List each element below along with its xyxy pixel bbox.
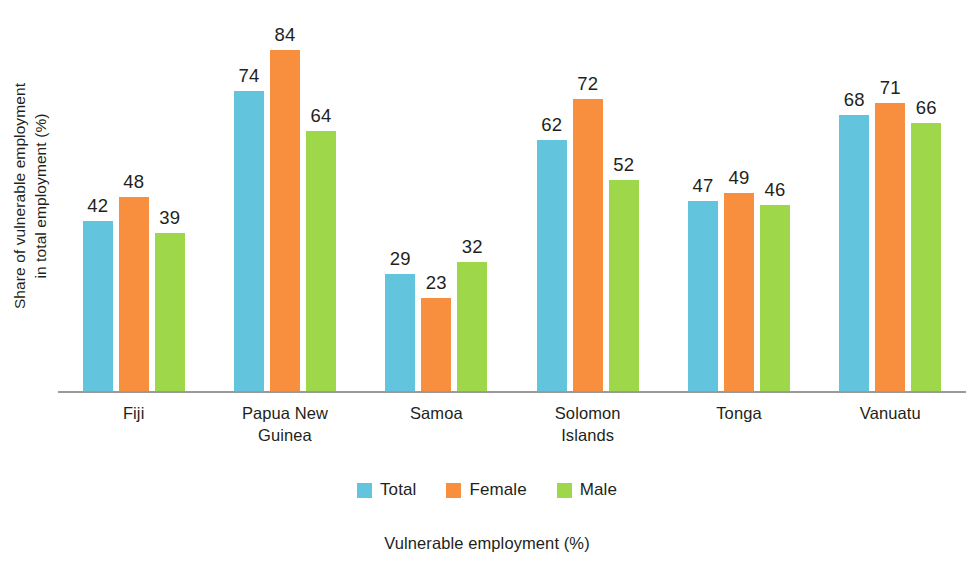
bar-value-label: 29 (390, 248, 411, 270)
x-axis-label-line: Papua New (209, 402, 360, 424)
bar-value-label: 52 (613, 154, 634, 176)
y-axis-title-line-2: in total employment (%) (30, 83, 51, 309)
bar-value-label: 47 (692, 175, 713, 197)
bar-value-label: 23 (426, 272, 447, 294)
bar-item[interactable]: 72 (573, 0, 603, 392)
bar-value-label: 74 (238, 65, 259, 87)
bar-value-label: 46 (764, 179, 785, 201)
bar-value-label: 49 (728, 167, 749, 189)
bar-male[interactable] (911, 123, 941, 392)
bar-group-bars: 474946 (663, 0, 814, 392)
bar-group-bars: 627252 (512, 0, 663, 392)
bar-female[interactable] (573, 99, 603, 392)
bar-value-label: 68 (844, 89, 865, 111)
bar-value-label: 62 (541, 114, 562, 136)
vulnerable-employment-bar-chart: Share of vulnerable employment in total … (0, 0, 974, 572)
y-axis-title-line-1: Share of vulnerable employment (11, 83, 28, 309)
x-axis-label-line: Guinea (209, 424, 360, 446)
bar-male[interactable] (306, 131, 336, 392)
y-axis-title: Share of vulnerable employment in total … (0, 0, 60, 392)
bar-total[interactable] (234, 91, 264, 392)
x-axis-label: Samoa (361, 402, 512, 424)
bar-total[interactable] (83, 221, 113, 392)
x-axis-label: Fiji (58, 402, 209, 424)
bar-value-label: 32 (462, 236, 483, 258)
bar-item[interactable]: 71 (875, 0, 905, 392)
bar-item[interactable]: 47 (688, 0, 718, 392)
legend-swatch-icon (357, 483, 372, 498)
bar-item[interactable]: 23 (421, 0, 451, 392)
legend-item-total[interactable]: Total (357, 480, 416, 500)
bar-value-label: 66 (916, 97, 937, 119)
bar-female[interactable] (421, 298, 451, 392)
legend-swatch-icon (446, 483, 461, 498)
bar-value-label: 72 (577, 73, 598, 95)
bar-item[interactable]: 42 (83, 0, 113, 392)
bar-female[interactable] (119, 197, 149, 392)
bar-group: 687166 (815, 0, 966, 392)
legend-item-female[interactable]: Female (446, 480, 526, 500)
bar-value-label: 39 (159, 207, 180, 229)
bar-item[interactable]: 39 (155, 0, 185, 392)
bar-male[interactable] (760, 205, 790, 392)
bar-total[interactable] (688, 201, 718, 392)
bar-item[interactable]: 29 (385, 0, 415, 392)
x-axis-label-line: Fiji (58, 402, 209, 424)
bar-item[interactable]: 66 (911, 0, 941, 392)
x-axis-label: SolomonIslands (512, 402, 663, 446)
bar-group-bars: 424839 (58, 0, 209, 392)
bar-item[interactable]: 64 (306, 0, 336, 392)
bar-value-label: 84 (274, 24, 295, 46)
legend-label: Male (580, 480, 617, 500)
bar-value-label: 71 (880, 77, 901, 99)
x-axis-label-line: Islands (512, 424, 663, 446)
bar-female[interactable] (270, 50, 300, 392)
bar-total[interactable] (839, 115, 869, 392)
bar-group: 292332 (361, 0, 512, 392)
x-axis-label: Vanuatu (815, 402, 966, 424)
x-axis-label: Tonga (663, 402, 814, 424)
bar-item[interactable]: 68 (839, 0, 869, 392)
bar-female[interactable] (875, 103, 905, 392)
bar-group-bars: 748464 (209, 0, 360, 392)
bar-group: 748464 (209, 0, 360, 392)
bar-total[interactable] (537, 140, 567, 392)
legend-item-male[interactable]: Male (557, 480, 617, 500)
legend-label: Total (380, 480, 416, 500)
bar-item[interactable]: 46 (760, 0, 790, 392)
bar-item[interactable]: 52 (609, 0, 639, 392)
bar-item[interactable]: 62 (537, 0, 567, 392)
x-axis-label-line: Vanuatu (815, 402, 966, 424)
x-axis-line (58, 391, 966, 393)
bar-item[interactable]: 74 (234, 0, 264, 392)
bar-item[interactable]: 84 (270, 0, 300, 392)
chart-legend: TotalFemaleMale (0, 480, 974, 500)
bar-male[interactable] (609, 180, 639, 392)
bar-group-bars: 292332 (361, 0, 512, 392)
bar-group-bars: 687166 (815, 0, 966, 392)
chart-caption: Vulnerable employment (%) (0, 534, 974, 553)
x-axis-label-line: Solomon (512, 402, 663, 424)
x-axis-label: Papua NewGuinea (209, 402, 360, 446)
bar-item[interactable]: 48 (119, 0, 149, 392)
bar-female[interactable] (724, 193, 754, 393)
bar-item[interactable]: 49 (724, 0, 754, 392)
x-axis-category-labels: FijiPapua NewGuineaSamoaSolomonIslandsTo… (58, 402, 966, 462)
bar-group: 424839 (58, 0, 209, 392)
bar-male[interactable] (155, 233, 185, 392)
plot-area: 424839748464292332627252474946687166 (58, 0, 966, 392)
bar-male[interactable] (457, 262, 487, 392)
bar-total[interactable] (385, 274, 415, 392)
x-axis-label-line: Samoa (361, 402, 512, 424)
bar-value-label: 42 (87, 195, 108, 217)
legend-swatch-icon (557, 483, 572, 498)
bar-item[interactable]: 32 (457, 0, 487, 392)
x-axis-label-line: Tonga (663, 402, 814, 424)
bar-value-label: 64 (310, 105, 331, 127)
bar-group: 627252 (512, 0, 663, 392)
bar-value-label: 48 (123, 171, 144, 193)
bar-group: 474946 (663, 0, 814, 392)
legend-label: Female (469, 480, 526, 500)
